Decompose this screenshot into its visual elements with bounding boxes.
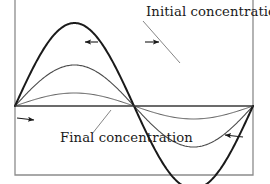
frame-border [15,0,253,175]
curve-initial-concentration [15,23,253,184]
curves-group [15,23,253,184]
label-initial-concentration: Initial concentration [146,4,270,19]
labels-group: Initial concentration Final concentratio… [60,4,270,145]
arrow-left-trough-inward [17,118,34,120]
arrows-group [17,42,243,137]
label-final-concentration: Final concentration [60,130,193,145]
figure-canvas: Initial concentration Final concentratio… [0,0,270,184]
plot-frame [15,0,253,175]
diffusion-figure: Initial concentration Final concentratio… [0,0,270,184]
